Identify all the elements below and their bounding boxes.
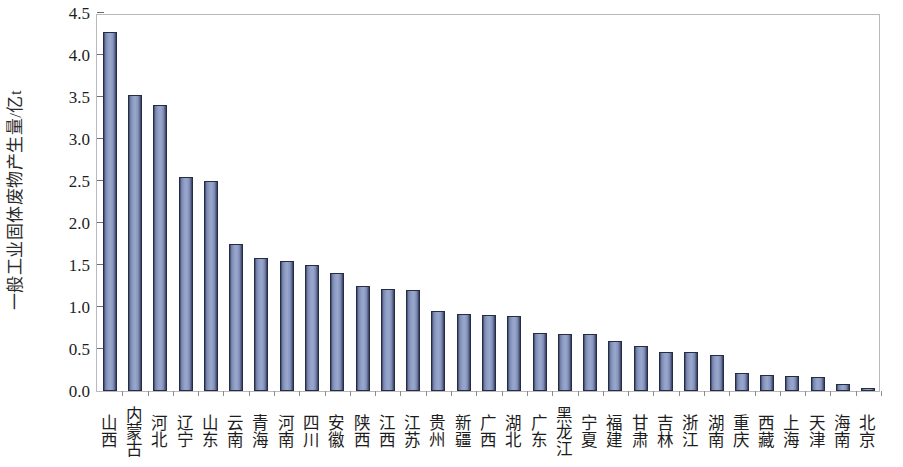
x-axis-tick-label: 天津 bbox=[808, 396, 826, 466]
bar-slot bbox=[122, 13, 147, 391]
bar[interactable] bbox=[710, 355, 724, 391]
bar-slot bbox=[729, 13, 754, 391]
bar[interactable] bbox=[735, 373, 749, 391]
x-axis-tick-label: 江苏 bbox=[403, 396, 421, 466]
bar[interactable] bbox=[280, 261, 294, 391]
x-axis-tick-mark bbox=[881, 391, 882, 396]
x-axis-tick-label: 西藏 bbox=[757, 396, 775, 466]
x-axis-tick-label: 山东 bbox=[201, 396, 219, 466]
bar[interactable] bbox=[204, 181, 218, 391]
bar[interactable] bbox=[608, 341, 622, 391]
x-axis-tick-label: 内蒙古 bbox=[125, 396, 143, 466]
bars-container bbox=[97, 15, 879, 391]
bar[interactable] bbox=[153, 105, 167, 391]
bar-slot bbox=[148, 13, 173, 391]
bar[interactable] bbox=[254, 258, 268, 391]
y-axis-tick-label: 1.5 bbox=[40, 256, 90, 276]
bar-slot bbox=[755, 13, 780, 391]
bar[interactable] bbox=[103, 32, 117, 391]
bar[interactable] bbox=[558, 334, 572, 391]
bar-slot bbox=[527, 13, 552, 391]
bar[interactable] bbox=[128, 95, 142, 391]
x-axis-tick-label: 陕西 bbox=[353, 396, 371, 466]
bar-slot bbox=[578, 13, 603, 391]
bar[interactable] bbox=[861, 388, 875, 391]
bar-slot bbox=[325, 13, 350, 391]
bar[interactable] bbox=[836, 384, 850, 391]
bar[interactable] bbox=[583, 334, 597, 391]
bar-slot bbox=[97, 13, 122, 391]
x-axis-tick-label: 江西 bbox=[378, 396, 396, 466]
x-axis-tick-labels: 山西内蒙古河北辽宁山东云南青海河南四川安徽陕西江西江苏贵州新疆广西湖北广东黑龙江… bbox=[96, 396, 880, 467]
y-axis-tick-labels: 4.54.03.53.02.52.01.51.00.50.0 bbox=[40, 0, 90, 400]
x-axis-tick-label: 湖北 bbox=[504, 396, 522, 466]
bar-slot bbox=[603, 13, 628, 391]
bar[interactable] bbox=[457, 314, 471, 391]
x-axis-tick-label: 青海 bbox=[251, 396, 269, 466]
bar-slot bbox=[653, 13, 678, 391]
bar[interactable] bbox=[305, 265, 319, 391]
y-axis-tick-label: 4.5 bbox=[40, 4, 90, 24]
bar-slot bbox=[274, 13, 299, 391]
bar-slot bbox=[375, 13, 400, 391]
bar[interactable] bbox=[482, 315, 496, 391]
bar[interactable] bbox=[684, 352, 698, 391]
bar[interactable] bbox=[229, 244, 243, 391]
x-axis-tick-label: 吉林 bbox=[656, 396, 674, 466]
bar-slot bbox=[502, 13, 527, 391]
bar-slot bbox=[451, 13, 476, 391]
x-axis-tick-label: 云南 bbox=[226, 396, 244, 466]
x-axis-tick-label: 宁夏 bbox=[580, 396, 598, 466]
plot-area bbox=[96, 14, 880, 392]
bar[interactable] bbox=[356, 286, 370, 391]
y-axis-tick-label: 1.0 bbox=[40, 298, 90, 318]
bar-chart: 一般工业固体废物产生量/亿t 4.54.03.53.02.52.01.51.00… bbox=[0, 0, 903, 467]
bar[interactable] bbox=[330, 273, 344, 391]
bar-slot bbox=[249, 13, 274, 391]
bar[interactable] bbox=[811, 377, 825, 391]
bar[interactable] bbox=[760, 375, 774, 391]
y-axis-tick-label: 3.0 bbox=[40, 130, 90, 150]
bar-slot bbox=[679, 13, 704, 391]
bar[interactable] bbox=[785, 376, 799, 391]
y-axis-tick-label: 2.5 bbox=[40, 172, 90, 192]
x-axis-tick-label: 山西 bbox=[100, 396, 118, 466]
bar-slot bbox=[856, 13, 881, 391]
bar-slot bbox=[426, 13, 451, 391]
bar-slot bbox=[830, 13, 855, 391]
bar-slot bbox=[350, 13, 375, 391]
bar[interactable] bbox=[659, 352, 673, 391]
bar-slot bbox=[400, 13, 425, 391]
bar[interactable] bbox=[406, 290, 420, 391]
bar[interactable] bbox=[381, 289, 395, 391]
x-axis-tick-label: 新疆 bbox=[454, 396, 472, 466]
bar-slot bbox=[780, 13, 805, 391]
bar-slot bbox=[223, 13, 248, 391]
x-axis-tick-label: 浙江 bbox=[681, 396, 699, 466]
bar[interactable] bbox=[533, 333, 547, 391]
bar[interactable] bbox=[179, 177, 193, 391]
x-axis-tick-label: 福建 bbox=[605, 396, 623, 466]
bar[interactable] bbox=[507, 316, 521, 391]
x-axis-tick-label: 甘肃 bbox=[631, 396, 649, 466]
x-axis-tick-label: 湖南 bbox=[707, 396, 725, 466]
bar-slot bbox=[704, 13, 729, 391]
bar-slot bbox=[805, 13, 830, 391]
x-axis-tick-label: 河北 bbox=[150, 396, 168, 466]
bar-slot bbox=[552, 13, 577, 391]
y-axis-tick-label: 2.0 bbox=[40, 214, 90, 234]
y-axis-title: 一般工业固体废物产生量/亿t bbox=[0, 0, 26, 400]
y-axis-tick-label: 3.5 bbox=[40, 88, 90, 108]
x-axis-tick-label: 河南 bbox=[277, 396, 295, 466]
x-axis-tick-label: 重庆 bbox=[732, 396, 750, 466]
x-axis-tick-label: 广东 bbox=[530, 396, 548, 466]
x-axis-tick-label: 贵州 bbox=[428, 396, 446, 466]
bar[interactable] bbox=[634, 346, 648, 391]
y-axis-tick-label: 4.0 bbox=[40, 46, 90, 66]
bar[interactable] bbox=[431, 311, 445, 391]
x-axis-tick-label: 辽宁 bbox=[176, 396, 194, 466]
bar-slot bbox=[628, 13, 653, 391]
x-axis-tick-label: 北京 bbox=[858, 396, 876, 466]
x-axis-tick-label: 广西 bbox=[479, 396, 497, 466]
bar-slot bbox=[299, 13, 324, 391]
